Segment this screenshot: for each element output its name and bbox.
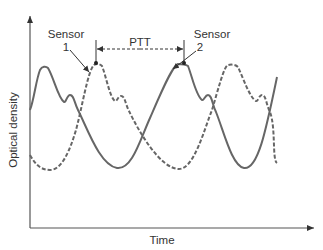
sensor1-peak-dot bbox=[94, 61, 98, 65]
sensor2-label: Sensor bbox=[194, 28, 231, 40]
sensor1-annotation: Sensor 1 bbox=[48, 28, 89, 72]
ptt-diagram: PTT Sensor 1 Sensor 2 Time Optical densi… bbox=[0, 0, 323, 250]
y-axis-label: Optical density bbox=[7, 92, 19, 168]
sensor1-waveform bbox=[30, 64, 277, 170]
ptt-label: PTT bbox=[129, 36, 151, 48]
sensor2-number: 2 bbox=[197, 41, 203, 53]
sensor1-pointer-arrow bbox=[70, 50, 89, 72]
sensor1-label: Sensor bbox=[48, 28, 85, 40]
x-axis-label: Time bbox=[149, 234, 174, 246]
ptt-bracket: PTT bbox=[94, 36, 186, 65]
sensor1-number: 1 bbox=[63, 41, 69, 53]
